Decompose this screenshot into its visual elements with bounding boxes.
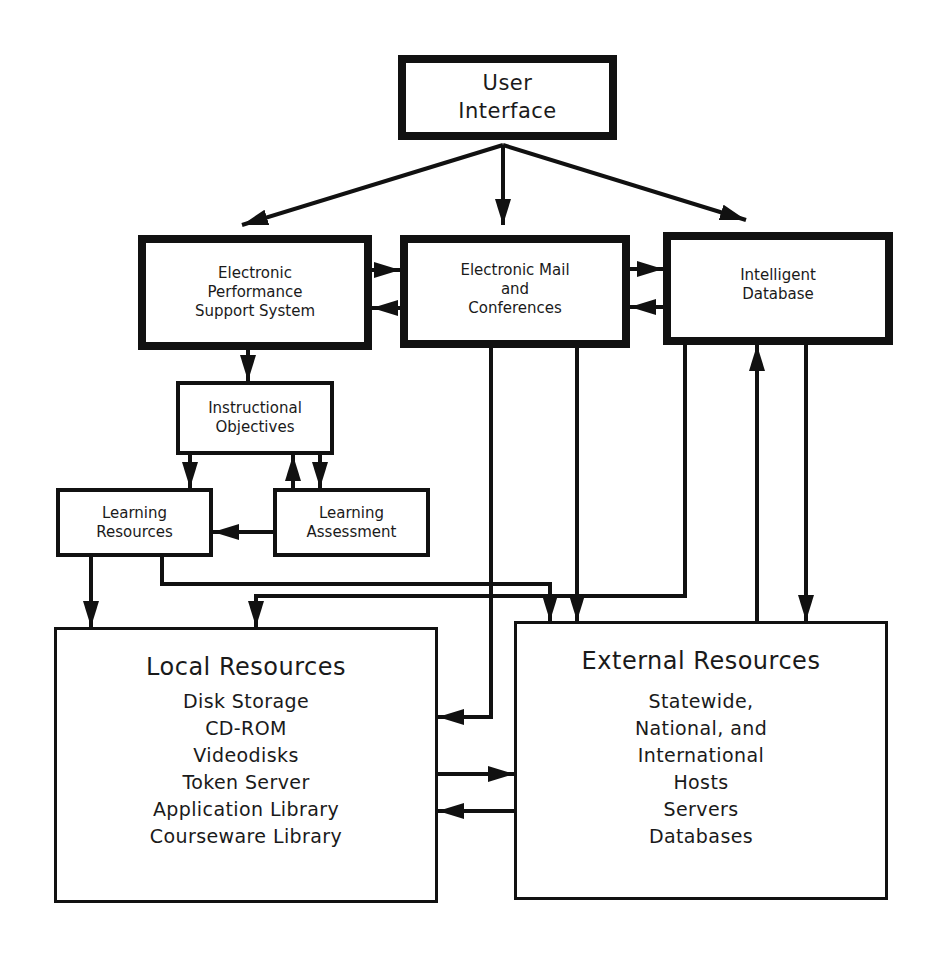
node-item: Hosts xyxy=(673,769,728,796)
node-item: International xyxy=(638,742,764,769)
node-label: Interface xyxy=(458,98,557,125)
node-item: Courseware Library xyxy=(150,823,342,850)
node-item: Token Server xyxy=(182,769,309,796)
node-item: Disk Storage xyxy=(183,688,309,715)
node-item: Servers xyxy=(663,796,738,823)
node-title: Local Resources xyxy=(146,652,346,682)
node-electronic-mail-and-conferences: Electronic Mail and Conferences xyxy=(400,235,630,348)
node-item: CD-ROM xyxy=(205,715,287,742)
node-item: Databases xyxy=(649,823,753,850)
node-item: National, and xyxy=(635,715,767,742)
node-label: Electronic Mail xyxy=(460,261,569,280)
node-label: Electronic xyxy=(218,264,292,283)
node-label: Assessment xyxy=(307,523,397,542)
node-title: External Resources xyxy=(582,646,821,676)
system-architecture-diagram: User Interface Electronic Performance Su… xyxy=(0,0,942,953)
node-label: Conferences xyxy=(468,299,562,318)
node-external-resources: External Resources Statewide, National, … xyxy=(514,621,888,900)
node-label: Instructional xyxy=(208,399,302,418)
node-item: Application Library xyxy=(153,796,339,823)
node-label: Objectives xyxy=(216,418,295,437)
node-learning-assessment: Learning Assessment xyxy=(273,488,430,557)
node-label: Learning xyxy=(319,504,384,523)
node-label: Intelligent xyxy=(740,266,816,285)
node-electronic-performance-support-system: Electronic Performance Support System xyxy=(138,235,372,350)
node-label: Resources xyxy=(96,523,173,542)
node-user-interface: User Interface xyxy=(398,55,617,140)
node-item: Statewide, xyxy=(649,688,754,715)
node-local-resources: Local Resources Disk Storage CD-ROM Vide… xyxy=(54,627,438,903)
node-label: and xyxy=(501,280,529,299)
node-label: Learning xyxy=(102,504,167,523)
node-item: Videodisks xyxy=(193,742,298,769)
node-label: Support System xyxy=(195,302,315,321)
arrow-ui-to-intelligent-db xyxy=(503,145,746,220)
node-intelligent-database: Intelligent Database xyxy=(663,232,893,345)
node-label: Performance xyxy=(207,283,302,302)
node-learning-resources: Learning Resources xyxy=(56,488,213,557)
arrow-email-to-local xyxy=(438,348,491,717)
node-label: Database xyxy=(742,285,814,304)
arrow-ui-to-epss xyxy=(242,145,503,225)
node-label: User xyxy=(483,70,533,97)
node-instructional-objectives: Instructional Objectives xyxy=(176,381,334,455)
